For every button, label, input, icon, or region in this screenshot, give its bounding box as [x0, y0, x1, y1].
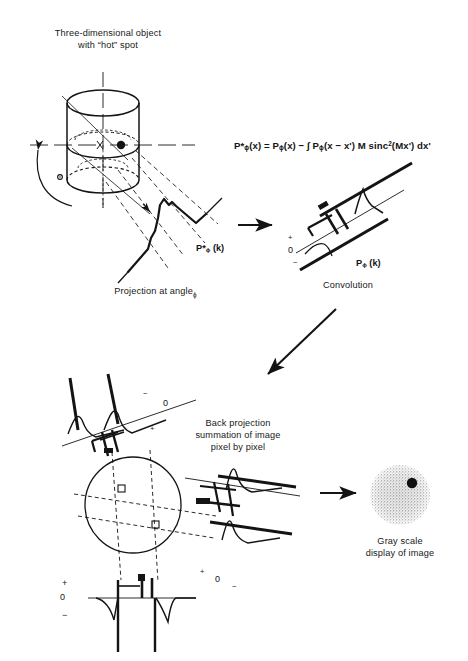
slice-center-cross	[97, 141, 103, 149]
fan-line-1	[135, 150, 218, 224]
equation-part-1: P*	[234, 140, 244, 151]
convolution-axis-plus: +	[288, 233, 292, 242]
equation-part-4: (x − x') M sinc	[324, 140, 388, 151]
summation-axis-plus: +	[62, 578, 67, 588]
convolution-caption: Convolution	[290, 280, 406, 292]
page-title: Three-dimensional object with “hot” spot	[22, 28, 194, 52]
kernel-bridge-2	[308, 228, 313, 236]
phi-symbol-dot	[59, 176, 61, 178]
bp-ray-h1	[74, 494, 216, 516]
kernel-block-1	[318, 201, 329, 210]
bp-upper-bar-1	[70, 378, 78, 430]
grayscale-caption: Gray scale display of image	[340, 536, 460, 560]
convolution-axis-zero: 0	[288, 245, 293, 255]
bp-right-tick-1	[214, 482, 220, 512]
bp-upper-axis-minus: −	[143, 389, 147, 398]
bp-ray-v2	[150, 450, 158, 582]
bp-right-bar-2	[210, 522, 292, 534]
hot-spot-marker	[117, 141, 125, 149]
summation-axis-minus: −	[62, 610, 67, 620]
backprojection-caption: Back projection summation of image pixel…	[168, 418, 308, 453]
projection-caption-text: Projection at angle	[114, 286, 193, 296]
convolution-signal-tail: (k)	[367, 258, 381, 268]
bp-right-comb-1	[200, 486, 236, 490]
pixel-marker-2	[152, 521, 159, 528]
bp-right-comb-2	[205, 502, 240, 506]
projection-signal-label: P*ϕ (k)	[196, 243, 224, 253]
convolution-axis-minus: −	[293, 258, 297, 267]
projection-signal-text: P*	[196, 243, 206, 253]
kernel-bridge-1	[308, 215, 332, 228]
bp-ray-v1	[112, 452, 121, 580]
backprojection-glyph-right	[185, 469, 300, 543]
bp-upper-curve-2	[104, 411, 166, 433]
grayscale-hot-spot	[407, 478, 417, 488]
arrow-convolution-to-backprojection	[268, 309, 336, 374]
summation-cap-block	[138, 574, 145, 581]
projection-waveform	[118, 198, 222, 283]
projection-caption-sub: ϕ	[193, 291, 197, 298]
summation-axis-zero: 0	[60, 592, 65, 602]
figure-canvas: Three-dimensional object with “hot” spot…	[0, 0, 468, 661]
projection-signal-tail: (k)	[210, 243, 224, 253]
grayscale-image	[370, 465, 430, 525]
bp-ray-h2	[78, 516, 214, 538]
reconstruction-circle	[74, 450, 216, 582]
equation-part-2: (x) = P	[249, 140, 279, 151]
equation-part-5: (Mx') dx'	[392, 140, 431, 151]
projection-profile-curve	[128, 199, 206, 272]
cylinder-ray-a	[62, 96, 128, 160]
cylinder-object	[30, 72, 218, 268]
bp-right-axis-plus: +	[200, 567, 204, 576]
bp-right-block	[196, 498, 210, 504]
diagram-linework	[0, 0, 468, 661]
convolution-bar-upper	[320, 163, 412, 216]
object-outline-circle	[85, 457, 181, 553]
bp-upper-axis-zero: 0	[163, 398, 168, 408]
grayscale-disc-shade	[370, 465, 430, 525]
projection-baseline-right	[206, 198, 222, 214]
bp-upper-axis-plus: +	[150, 424, 154, 433]
summation-waveform	[88, 574, 196, 652]
convolution-signal-label: Pϕ (k)	[356, 258, 381, 268]
bp-right-axis-zero: 0	[215, 574, 220, 584]
pixel-marker-1	[118, 485, 125, 492]
projection-baseline-left	[118, 272, 128, 283]
projection-caption: Projection at angleϕ	[88, 286, 223, 299]
convolution-glyph	[296, 163, 412, 270]
fan-line-2	[132, 158, 205, 243]
reconstruction-equation: P*ϕ(x) = Pϕ(x) − ∫ Pϕ(x − x') M sinc2(Mx…	[234, 140, 431, 151]
summation-tail-left	[96, 598, 118, 620]
bp-upper-comb-2	[92, 441, 95, 452]
summation-tail-right	[156, 598, 196, 622]
fan-line-4	[106, 182, 168, 268]
equation-part-3: (x) − ∫ P	[284, 140, 319, 151]
bp-right-axis-minus: −	[232, 582, 236, 591]
